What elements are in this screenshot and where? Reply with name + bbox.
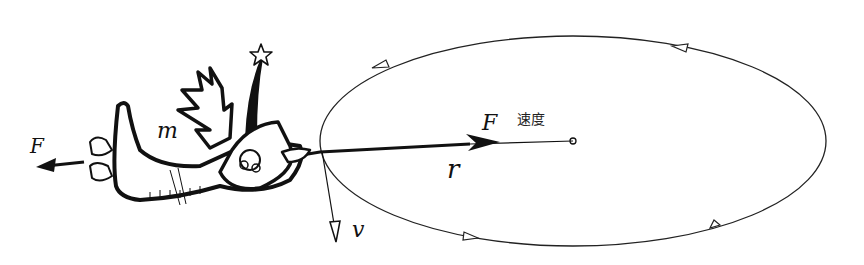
orbit-arrow-top-right — [672, 44, 688, 52]
velocity-vector — [322, 151, 340, 242]
creature-figure — [90, 44, 310, 205]
orbit-arrow-bottom-left — [463, 232, 478, 240]
label-radius: r — [447, 154, 459, 184]
force-arrowhead-icon — [466, 134, 500, 151]
label-force-center: F — [482, 110, 497, 135]
orbit-diagram: F m F 速度 r v — [0, 0, 864, 265]
label-center-caption: 速度 — [517, 108, 545, 128]
label-velocity: v — [352, 217, 364, 242]
label-force-left: F — [30, 134, 44, 158]
orbit-arrow-top-left — [372, 60, 389, 68]
left-force-arrow — [36, 158, 84, 172]
diagram-canvas — [0, 0, 864, 265]
label-mass: m — [157, 118, 178, 143]
radius-vector — [296, 134, 573, 156]
